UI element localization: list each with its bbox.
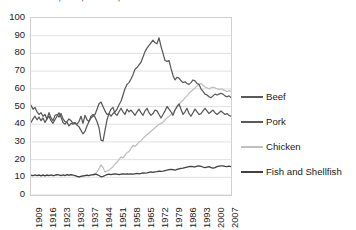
y-axis-tick-label: 10 [14,171,25,181]
x-axis-tick-label: 1923 [62,207,72,228]
x-axis-tick-label: 1993 [202,207,212,228]
x-axis-tick-label: 1951 [118,207,128,228]
x-axis-tick-label: 1937 [90,207,100,228]
plot-lines [31,18,231,195]
x-axis-tick-label: 1916 [48,207,58,228]
x-axis-tick-label: 1965 [146,207,156,228]
y-axis: 1009080706050403020100 [0,0,29,230]
x-axis-tick-label: 2007 [230,207,240,228]
y-axis-tick-label: 60 [14,83,25,93]
chart-container: Beef, Pork, Chicken, and Fish and Shellf… [0,0,356,230]
y-axis-tick-label: 20 [14,154,25,164]
series-line-chicken [31,83,231,177]
legend-swatch-beef-icon [241,96,263,98]
legend-item-pork[interactable]: Pork [241,109,356,134]
y-axis-tick-label: 0 [20,189,25,199]
series-line-pork [31,104,231,141]
x-axis: 1909191619231930193719441951195819651972… [30,197,232,230]
x-axis-tick-label: 1930 [76,207,86,228]
x-axis-tick-label: 1958 [132,207,142,228]
x-axis-tick-label: 1944 [104,207,114,228]
series-line-fish [31,166,231,177]
legend-label: Pork [266,116,286,127]
x-axis-tick-label: 1972 [160,207,170,228]
chart-legend: BeefPorkChickenFish and Shellfish [241,84,356,184]
chart-title: Beef, Pork, Chicken, and Fish and Shellf… [0,0,250,2]
x-axis-tick-label: 1979 [174,207,184,228]
y-axis-tick-label: 30 [14,136,25,146]
legend-item-fish[interactable]: Fish and Shellfish [241,159,356,184]
legend-label: Fish and Shellfish [266,166,342,177]
legend-swatch-fish-icon [241,171,263,173]
y-axis-tick-label: 90 [14,30,25,40]
x-axis-tick-label: 2000 [216,207,226,228]
legend-swatch-pork-icon [241,121,263,123]
x-axis-tick-label: 1909 [34,207,44,228]
y-axis-tick-label: 50 [14,101,25,111]
plot-area [30,17,232,196]
y-axis-tick-label: 40 [14,118,25,128]
x-axis-tick-label: 1986 [188,207,198,228]
y-axis-tick-label: 70 [14,65,25,75]
legend-item-chicken[interactable]: Chicken [241,134,356,159]
legend-item-beef[interactable]: Beef [241,84,356,109]
legend-label: Beef [266,91,286,102]
legend-swatch-chicken-icon [241,146,263,148]
y-axis-tick-label: 80 [14,47,25,57]
legend-label: Chicken [266,141,301,152]
y-axis-tick-label: 100 [9,12,25,22]
